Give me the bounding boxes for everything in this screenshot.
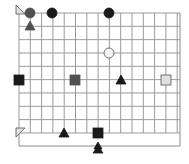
square-dark-gray-1-icon[interactable]: [70, 75, 80, 85]
triangle-dark-gray-1-icon[interactable]: [25, 21, 35, 30]
square-black-2-icon[interactable]: [93, 128, 103, 138]
grid-lines: [19, 13, 180, 146]
corner-marker-top-left-icon[interactable]: [16, 5, 25, 14]
circle-black-2-icon[interactable]: [104, 8, 114, 18]
triangle-stack-black-icon[interactable]: [93, 146, 103, 153]
circle-black-1-icon[interactable]: [47, 8, 57, 18]
circle-white-1-icon[interactable]: [104, 48, 114, 58]
game-pieces: [14, 5, 171, 153]
square-black-1-icon[interactable]: [14, 75, 24, 85]
square-light-gray-1-icon[interactable]: [161, 75, 171, 85]
circle-dark-gray-1-icon[interactable]: [25, 8, 35, 18]
game-board[interactable]: [0, 0, 189, 164]
